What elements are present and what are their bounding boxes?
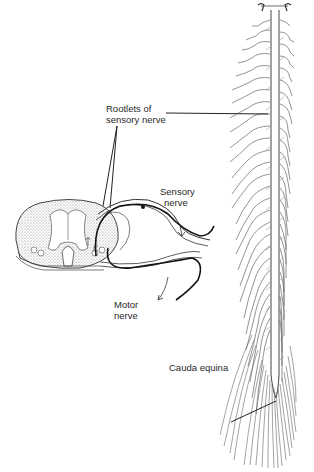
- label-line: nerve: [114, 310, 138, 321]
- label-motor-nerve: Motor nerve: [114, 299, 138, 321]
- label-sensory-nerve: Sensory nerve: [160, 186, 195, 208]
- label-line: Rootlets of: [106, 103, 166, 114]
- spinal-cord-diagram: [0, 0, 314, 472]
- label-cauda-equina: Cauda equina: [169, 362, 228, 373]
- label-line: sensory nerve: [106, 114, 166, 125]
- spinal-cord-longitudinal: [230, 4, 294, 415]
- label-line: Cauda equina: [169, 362, 228, 373]
- label-line: Sensory: [160, 186, 195, 197]
- cauda-equina-strands: [220, 335, 296, 468]
- label-line: Motor: [114, 299, 138, 310]
- label-rootlets-of-sensory-nerve: Rootlets of sensory nerve: [106, 103, 166, 125]
- label-line: nerve: [160, 197, 195, 208]
